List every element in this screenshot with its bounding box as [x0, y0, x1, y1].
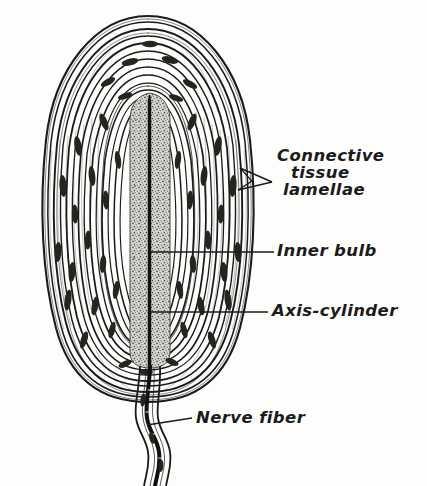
label-axis-cylinder: Axis-cylinder — [272, 303, 398, 320]
leader-connective-tissue — [238, 168, 272, 190]
label-nerve-fiber: Nerve fiber — [196, 410, 305, 427]
label-connective-tissue-lamellae: Connective tissue lamellae — [277, 148, 384, 198]
label-inner-bulb: Inner bulb — [277, 243, 377, 260]
label-connective-line3: lamellae — [283, 182, 384, 199]
